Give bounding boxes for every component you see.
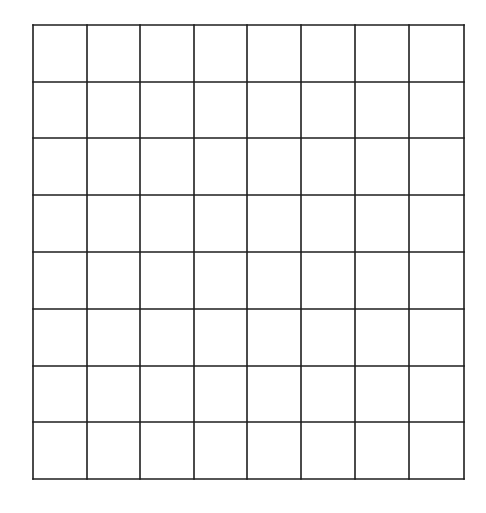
grid-cell [87, 138, 140, 195]
grid-cell [140, 25, 194, 82]
grid-cell [194, 252, 247, 309]
grid-cell [87, 366, 140, 422]
empty-8x8-grid [0, 0, 486, 513]
grid-cell [140, 195, 194, 252]
grid-cell [247, 82, 301, 138]
grid-cell [247, 138, 301, 195]
grid-cell [355, 138, 409, 195]
grid-cell [33, 195, 87, 252]
grid-cell [140, 422, 194, 479]
grid-cell [33, 252, 87, 309]
grid-cell [301, 138, 355, 195]
blank-grid-canvas [0, 0, 486, 513]
grid-cell [87, 309, 140, 366]
grid-cell [247, 422, 301, 479]
grid-cell [409, 82, 464, 138]
grid-cell [247, 366, 301, 422]
grid-cell [140, 252, 194, 309]
grid-cell [355, 252, 409, 309]
grid-cell [194, 422, 247, 479]
grid-cell [409, 252, 464, 309]
grid-cell [87, 252, 140, 309]
grid-cell [87, 422, 140, 479]
grid-cell [140, 309, 194, 366]
grid-cell [355, 366, 409, 422]
grid-cell [33, 422, 87, 479]
grid-cell [355, 82, 409, 138]
grid-cell [301, 366, 355, 422]
grid-cell [247, 252, 301, 309]
grid-cell [355, 25, 409, 82]
grid-cell [301, 252, 355, 309]
grid-cell [87, 25, 140, 82]
grid-cell [140, 138, 194, 195]
grid-cell [301, 422, 355, 479]
grid-cell [301, 195, 355, 252]
grid-cell [301, 82, 355, 138]
grid-cell [355, 195, 409, 252]
grid-cell [355, 309, 409, 366]
grid-cell [409, 25, 464, 82]
grid-cell [355, 422, 409, 479]
grid-cell [140, 82, 194, 138]
grid-cell [194, 309, 247, 366]
grid-cell [409, 366, 464, 422]
grid-cell [194, 138, 247, 195]
grid-cell [140, 366, 194, 422]
grid-cell [87, 195, 140, 252]
grid-cell [33, 309, 87, 366]
grid-cell [301, 309, 355, 366]
grid-cell [301, 25, 355, 82]
grid-cell [33, 366, 87, 422]
grid-cell [409, 309, 464, 366]
grid-cell [247, 25, 301, 82]
grid-cell [194, 195, 247, 252]
grid-cell [409, 195, 464, 252]
grid-cell [409, 138, 464, 195]
grid-cell [33, 82, 87, 138]
grid-cell [33, 138, 87, 195]
grid-cell [409, 422, 464, 479]
grid-cell [194, 25, 247, 82]
grid-cell [194, 366, 247, 422]
grid-cell [33, 25, 87, 82]
grid-cell [194, 82, 247, 138]
grid-cell [247, 309, 301, 366]
grid-cell [87, 82, 140, 138]
grid-cell [247, 195, 301, 252]
